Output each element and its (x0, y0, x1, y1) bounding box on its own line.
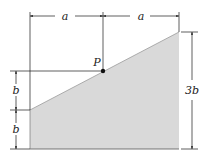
point-p-label: P (92, 56, 101, 69)
dimension-label-left-upper: b (12, 84, 19, 97)
shaded-area (30, 32, 179, 149)
point-p-dot (101, 69, 105, 73)
dimension-label-top-right: a (138, 10, 145, 23)
diagram-canvas: a a b b 3b P (0, 0, 207, 156)
dimension-label-left-lower: b (12, 123, 19, 136)
dimension-label-right: 3b (185, 84, 199, 97)
dimension-label-top-left: a (62, 10, 69, 23)
